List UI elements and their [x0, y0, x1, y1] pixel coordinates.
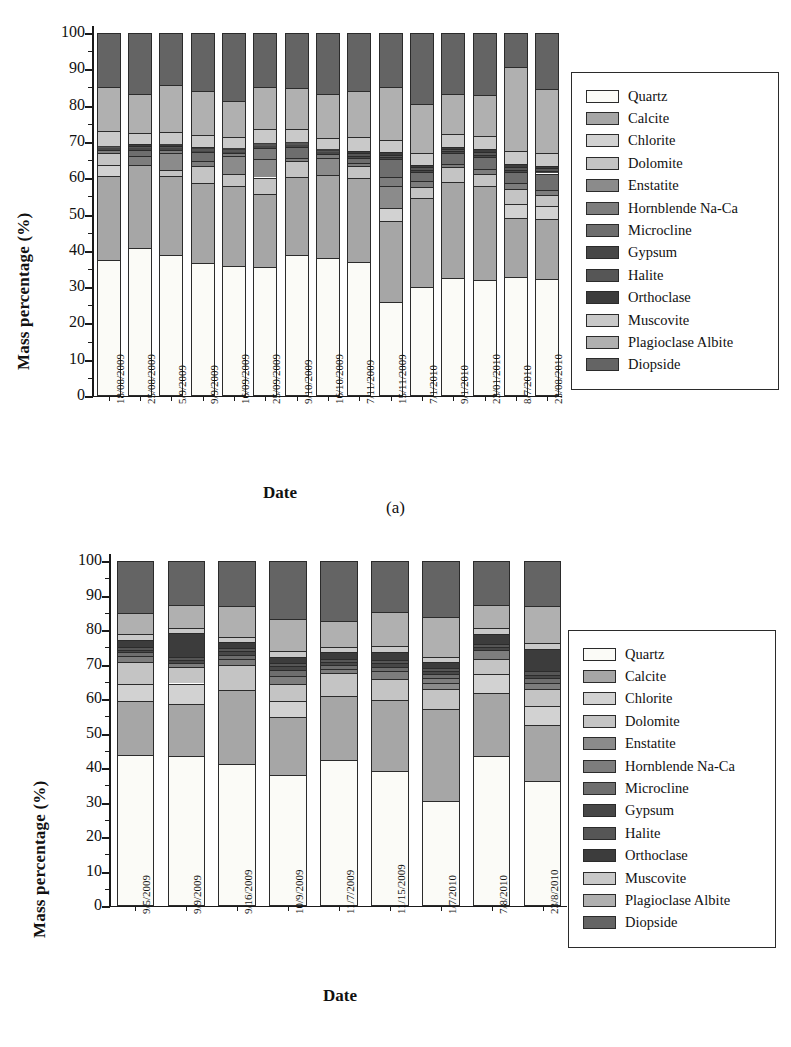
- bar-segment[interactable]: [441, 134, 465, 147]
- bar-segment[interactable]: [410, 172, 434, 182]
- bar-segment[interactable]: [422, 671, 460, 674]
- bar-segment[interactable]: [504, 172, 528, 183]
- legend-item[interactable]: Plagioclase Albite: [586, 331, 778, 353]
- bar-segment[interactable]: [422, 678, 460, 683]
- legend-item[interactable]: Chlorite: [586, 130, 778, 152]
- bar-segment[interactable]: [218, 651, 256, 654]
- bar-segment[interactable]: [316, 149, 340, 150]
- legend-item[interactable]: Diopside: [583, 912, 775, 934]
- bar-segment[interactable]: [191, 166, 215, 183]
- bar-segment[interactable]: [191, 33, 215, 91]
- bar-segment[interactable]: [473, 693, 511, 756]
- bar-segment[interactable]: [441, 33, 465, 94]
- bar-segment[interactable]: [473, 95, 497, 137]
- bar-segment[interactable]: [168, 684, 206, 704]
- bar-column[interactable]: [410, 33, 434, 396]
- bar-column[interactable]: [347, 33, 371, 396]
- bar-segment[interactable]: [371, 612, 409, 646]
- legend-item[interactable]: Gypsum: [586, 242, 778, 264]
- bar-segment[interactable]: [218, 606, 256, 636]
- bar-column[interactable]: [379, 33, 403, 396]
- bar-segment[interactable]: [218, 648, 256, 651]
- legend-item[interactable]: Dolomite: [586, 152, 778, 174]
- bar-segment[interactable]: [97, 147, 121, 148]
- bar-segment[interactable]: [535, 171, 559, 174]
- bar-segment[interactable]: [222, 152, 246, 153]
- bar-segment[interactable]: [168, 704, 206, 757]
- bar-segment[interactable]: [535, 168, 559, 171]
- legend-item[interactable]: Dolomite: [583, 710, 775, 732]
- bar-segment[interactable]: [128, 133, 152, 144]
- bar-segment[interactable]: [97, 165, 121, 176]
- bar-segment[interactable]: [168, 667, 206, 684]
- bar-segment[interactable]: [316, 33, 340, 94]
- bar-segment[interactable]: [97, 150, 121, 153]
- bar-segment[interactable]: [191, 161, 215, 165]
- bar-segment[interactable]: [269, 670, 307, 676]
- bar-segment[interactable]: [253, 129, 277, 142]
- bar-segment[interactable]: [504, 183, 528, 189]
- bar-segment[interactable]: [473, 561, 511, 605]
- bar-segment[interactable]: [222, 174, 246, 186]
- bar-column[interactable]: [422, 561, 460, 906]
- bar-segment[interactable]: [347, 151, 371, 153]
- bar-segment[interactable]: [159, 144, 183, 146]
- bar-segment[interactable]: [128, 94, 152, 133]
- bar-segment[interactable]: [285, 147, 309, 158]
- bar-segment[interactable]: [535, 190, 559, 194]
- bar-segment[interactable]: [316, 154, 340, 158]
- bar-segment[interactable]: [320, 669, 358, 673]
- bar-segment[interactable]: [159, 146, 183, 148]
- bar-segment[interactable]: [269, 663, 307, 666]
- bar-segment[interactable]: [379, 177, 403, 186]
- bar-segment[interactable]: [473, 674, 511, 693]
- bar-segment[interactable]: [535, 153, 559, 166]
- bar-segment[interactable]: [410, 198, 434, 287]
- bar-segment[interactable]: [159, 33, 183, 85]
- bar-segment[interactable]: [347, 163, 371, 166]
- bar-segment[interactable]: [441, 167, 465, 182]
- bar-segment[interactable]: [473, 644, 511, 647]
- bar-segment[interactable]: [441, 94, 465, 134]
- legend-item[interactable]: Muscovite: [586, 309, 778, 331]
- bar-segment[interactable]: [285, 177, 309, 254]
- bar-segment[interactable]: [410, 167, 434, 169]
- bar-segment[interactable]: [441, 147, 465, 149]
- bar-segment[interactable]: [218, 637, 256, 642]
- bar-segment[interactable]: [473, 136, 497, 149]
- bar-segment[interactable]: [269, 651, 307, 657]
- bar-segment[interactable]: [117, 561, 155, 613]
- bar-column[interactable]: [218, 561, 256, 906]
- bar-segment[interactable]: [320, 696, 358, 760]
- bar-column[interactable]: [316, 33, 340, 396]
- bar-segment[interactable]: [473, 174, 497, 186]
- bar-column[interactable]: [191, 33, 215, 396]
- bar-segment[interactable]: [191, 147, 215, 149]
- bar-segment[interactable]: [269, 684, 307, 701]
- bar-segment[interactable]: [285, 129, 309, 142]
- bar-segment[interactable]: [347, 91, 371, 137]
- bar-segment[interactable]: [473, 33, 497, 95]
- bar-column[interactable]: [269, 561, 307, 906]
- bar-segment[interactable]: [285, 142, 309, 143]
- legend-item[interactable]: Gypsum: [583, 800, 775, 822]
- bar-segment[interactable]: [504, 218, 528, 277]
- legend-item[interactable]: Enstatite: [586, 175, 778, 197]
- legend-item[interactable]: Muscovite: [583, 867, 775, 889]
- bar-segment[interactable]: [218, 561, 256, 606]
- legend-item[interactable]: Quartz: [586, 85, 778, 107]
- bar-segment[interactable]: [535, 174, 559, 191]
- bar-segment[interactable]: [168, 628, 206, 633]
- bar-segment[interactable]: [441, 164, 465, 168]
- bar-segment[interactable]: [117, 650, 155, 652]
- bar-segment[interactable]: [253, 178, 277, 195]
- bar-segment[interactable]: [191, 149, 215, 151]
- bar-segment[interactable]: [504, 151, 528, 164]
- bar-segment[interactable]: [117, 701, 155, 755]
- bar-column[interactable]: [473, 33, 497, 396]
- bar-segment[interactable]: [253, 146, 277, 148]
- bar-segment[interactable]: [218, 659, 256, 666]
- bar-segment[interactable]: [269, 676, 307, 685]
- bar-segment[interactable]: [316, 152, 340, 153]
- bar-segment[interactable]: [535, 206, 559, 218]
